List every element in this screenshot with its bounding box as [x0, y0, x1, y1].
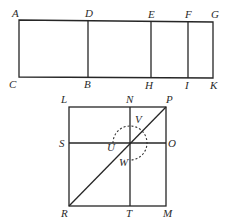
- label-O: O: [168, 137, 176, 149]
- top-rectangle: [19, 20, 213, 78]
- label-E: E: [147, 8, 155, 20]
- geometry-figure: A D E F G C B H I K L N P S O U V W R T …: [0, 0, 228, 224]
- label-V: V: [135, 113, 143, 125]
- label-G: G: [211, 8, 219, 20]
- square: [69, 107, 166, 206]
- label-U: U: [107, 141, 116, 153]
- label-I: I: [184, 79, 190, 91]
- rect-outline: [19, 20, 213, 78]
- label-M: M: [162, 207, 173, 219]
- label-K: K: [209, 79, 218, 91]
- label-A: A: [11, 7, 19, 19]
- label-B: B: [84, 78, 91, 90]
- label-S: S: [59, 137, 65, 149]
- label-T: T: [126, 207, 133, 219]
- label-P: P: [165, 93, 173, 105]
- label-D: D: [84, 7, 93, 19]
- label-W: W: [119, 156, 129, 168]
- label-R: R: [60, 207, 68, 219]
- label-F: F: [184, 8, 192, 20]
- label-L: L: [60, 93, 67, 105]
- label-H: H: [144, 79, 154, 91]
- label-C: C: [9, 78, 17, 90]
- diagonal-RP: [69, 107, 166, 206]
- label-N: N: [125, 93, 134, 105]
